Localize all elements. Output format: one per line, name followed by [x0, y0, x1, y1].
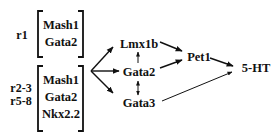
regulatory-network-diagram: r1 Mash1 Gata2 r2-3 r5-8 Mash1 Gata2 Nkx…: [0, 0, 276, 139]
gene-mash1: Mash1: [43, 18, 79, 32]
region-label-r1: r1: [16, 28, 27, 42]
node-pet1: Pet1: [187, 50, 211, 64]
node-lmx1b: Lmx1b: [120, 37, 158, 51]
gene-gata2: Gata2: [45, 35, 78, 49]
arrow-to-lmx1b: [91, 47, 113, 71]
region-label-r2-3: r2-3: [10, 81, 31, 95]
arrow-pet1-to-5ht: [210, 58, 233, 66]
node-gata3: Gata3: [123, 96, 156, 110]
node-gata2: Gata2: [123, 65, 156, 79]
node-5ht: 5-HT: [242, 61, 271, 75]
gene-mash1: Mash1: [43, 73, 79, 87]
group-r1: r1 Mash1 Gata2: [16, 11, 83, 57]
arrow-to-gata3: [91, 71, 113, 93]
gene-nkx2-2: Nkx2.2: [42, 107, 80, 121]
group-r2-3-r5-8: r2-3 r5-8 Mash1 Gata2 Nkx2.2: [10, 66, 83, 131]
arrow-gata3-to-5ht: [162, 72, 232, 101]
region-label-r5-8: r5-8: [10, 94, 31, 108]
fork-arrows: [91, 47, 119, 93]
gene-gata2: Gata2: [45, 90, 78, 104]
arrow-gata2-to-pet1: [160, 60, 182, 68]
arrow-lmx1b-to-pet1: [160, 42, 182, 51]
